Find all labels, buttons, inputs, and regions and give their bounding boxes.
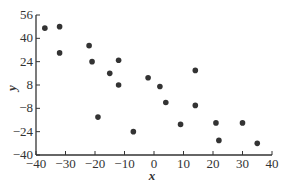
data-point (240, 120, 246, 126)
x-tick-label: −10 (114, 156, 134, 171)
y-tick-label: −8 (19, 100, 33, 115)
data-point (116, 82, 122, 88)
x-axis-label: x (148, 168, 156, 183)
data-point (131, 129, 137, 135)
x-tick-label: 20 (207, 156, 220, 171)
y-tick-label: −40 (13, 147, 33, 162)
x-tick-label: 10 (177, 156, 190, 171)
x-tick-label: −20 (85, 156, 105, 171)
data-point (86, 43, 92, 49)
data-point (213, 120, 219, 126)
data-point (193, 103, 199, 109)
y-tick-label: 40 (20, 30, 33, 45)
scatter-chart: −40−30−20−10010203040−40−24−88244056 x y (0, 0, 284, 185)
data-points (42, 24, 260, 146)
data-point (178, 122, 184, 128)
x-tick-label: 40 (266, 156, 279, 171)
data-point (163, 100, 169, 106)
data-point (157, 84, 163, 90)
data-point (216, 138, 222, 144)
data-point (57, 50, 63, 56)
data-point (116, 57, 122, 63)
data-point (107, 71, 113, 77)
data-point (42, 25, 48, 31)
data-point (145, 75, 151, 81)
data-point (57, 24, 63, 30)
x-tick-label: 30 (236, 156, 249, 171)
data-point (193, 68, 199, 74)
data-point (254, 141, 260, 147)
y-axis-label: y (4, 85, 19, 93)
y-tick-label: 24 (20, 54, 34, 69)
y-tick-label: −24 (13, 124, 34, 139)
data-point (95, 114, 101, 120)
x-tick-label: −30 (55, 156, 75, 171)
y-tick-label: 56 (20, 7, 34, 22)
data-point (89, 59, 95, 65)
axes: −40−30−20−10010203040−40−24−88244056 (13, 7, 279, 171)
y-tick-label: 8 (27, 77, 34, 92)
